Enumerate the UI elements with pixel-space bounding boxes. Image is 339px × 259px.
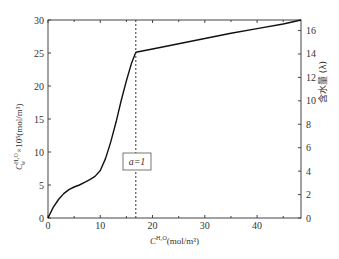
y2-tick-label: 12 [306, 72, 316, 83]
x-tick-label: 0 [46, 220, 51, 231]
y2-axis-label: 含水量 (λ) [317, 61, 328, 103]
y-axis-label: CH₂Ow×10⁵(mol/m³) [13, 103, 26, 170]
annotation-box: a=1 [123, 153, 151, 170]
y2-tick-label: 0 [306, 213, 311, 224]
y-tick-label: 5 [39, 180, 44, 191]
y2-tick-label: 10 [306, 95, 316, 106]
annotation-text: a=1 [129, 156, 146, 167]
x-axis-label: CH₂O(mol/m³) [150, 235, 199, 246]
axis-ticks: 0102030400510152025300246810121416 [34, 15, 316, 232]
y-tick-label: 25 [34, 48, 44, 59]
plot-frame [48, 20, 301, 218]
y-tick-label: 30 [34, 15, 44, 26]
y2-tick-label: 6 [306, 142, 311, 153]
x-tick-label: 10 [95, 220, 105, 231]
x-tick-label: 40 [252, 220, 262, 231]
y-tick-label: 15 [34, 114, 44, 125]
y2-tick-label: 14 [306, 48, 316, 59]
y-tick-label: 20 [34, 81, 44, 92]
data-series [48, 20, 301, 218]
curve-line [48, 20, 301, 218]
y2-tick-label: 2 [306, 189, 311, 200]
y2-tick-label: 16 [306, 25, 316, 36]
y-tick-label: 10 [34, 147, 44, 158]
y-tick-label: 0 [39, 213, 44, 224]
x-tick-label: 20 [148, 220, 158, 231]
chart: 0102030400510152025300246810121416 a=1 C… [0, 0, 339, 259]
y2-tick-label: 4 [306, 166, 311, 177]
y2-tick-label: 8 [306, 119, 311, 130]
x-tick-label: 30 [200, 220, 210, 231]
